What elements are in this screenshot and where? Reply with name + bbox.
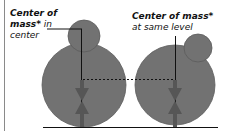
diagram-canvas [0,0,225,131]
